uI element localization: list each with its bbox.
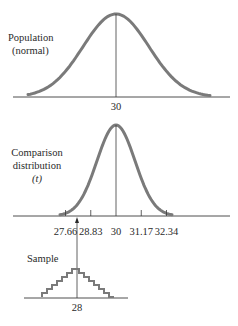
- population-type-label: (normal): [12, 45, 49, 57]
- comparison-distribution-label: distribution: [13, 160, 62, 171]
- sample-mean-label: 28: [72, 302, 83, 313]
- population-normal-curve: [28, 14, 210, 96]
- tick-label: 27.66: [54, 226, 78, 237]
- sample-histogram-outline: [42, 269, 114, 297]
- tick-label: 28.83: [79, 226, 103, 237]
- sample-panel: Sample 28: [24, 253, 128, 313]
- population-mean-label: 30: [111, 101, 122, 112]
- distribution-diagram: 30 Population (normal) 27.6628.833031.17…: [0, 0, 238, 326]
- arrowhead-icon: [75, 217, 79, 223]
- tick-label: 31.17: [129, 226, 153, 237]
- population-panel: 30 Population (normal): [8, 14, 230, 112]
- comparison-t-label: (t): [32, 173, 42, 185]
- sample-label: Sample: [27, 253, 59, 264]
- population-label: Population: [8, 32, 54, 43]
- tick-label: 32.34: [155, 226, 179, 237]
- comparison-panel: 27.6628.833031.1732.34 Comparison distri…: [11, 125, 230, 237]
- tick-label: 30: [111, 226, 122, 237]
- comparison-label: Comparison: [11, 147, 63, 158]
